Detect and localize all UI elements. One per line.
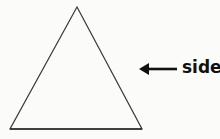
diagram-canvas: side xyxy=(0,0,220,139)
side-label: side xyxy=(182,57,220,77)
triangle-shape xyxy=(10,7,142,129)
arrow-left-icon xyxy=(139,63,177,75)
